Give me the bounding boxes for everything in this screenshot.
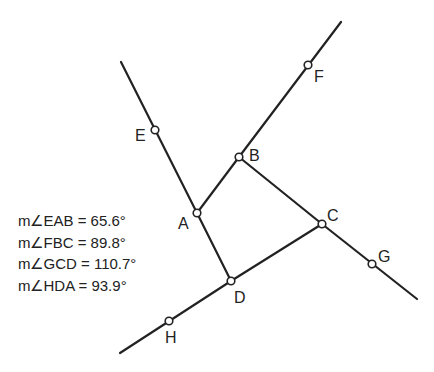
- segment-CD: [231, 224, 322, 281]
- measurement-FBC: m∠FBC = 89.8°: [18, 232, 136, 254]
- point-F[interactable]: [304, 61, 312, 69]
- segment-BC: [239, 157, 322, 224]
- label-B: B: [249, 147, 260, 164]
- label-D: D: [234, 289, 246, 306]
- label-F: F: [314, 68, 324, 85]
- segment-AB: [197, 157, 239, 213]
- point-E[interactable]: [151, 126, 159, 134]
- point-C[interactable]: [318, 220, 326, 228]
- label-A: A: [178, 215, 189, 232]
- label-H: H: [165, 329, 177, 346]
- point-D[interactable]: [227, 277, 235, 285]
- segment-DA: [197, 213, 231, 281]
- point-B[interactable]: [235, 153, 243, 161]
- label-G: G: [378, 248, 390, 265]
- point-H[interactable]: [165, 317, 173, 325]
- measurement-HDA: m∠HDA = 93.9°: [18, 275, 136, 297]
- angle-measurements: m∠EAB = 65.6° m∠FBC = 89.8° m∠GCD = 110.…: [18, 210, 136, 296]
- point-A[interactable]: [193, 209, 201, 217]
- measurement-EAB: m∠EAB = 65.6°: [18, 210, 136, 232]
- ray-AE: [121, 62, 197, 213]
- ray-BF: [239, 22, 341, 157]
- label-C: C: [327, 207, 339, 224]
- quadrilateral-diagram: A B C D E F G H: [0, 0, 434, 372]
- measurement-GCD: m∠GCD = 110.7°: [18, 253, 136, 275]
- label-E: E: [135, 127, 146, 144]
- point-G[interactable]: [368, 260, 376, 268]
